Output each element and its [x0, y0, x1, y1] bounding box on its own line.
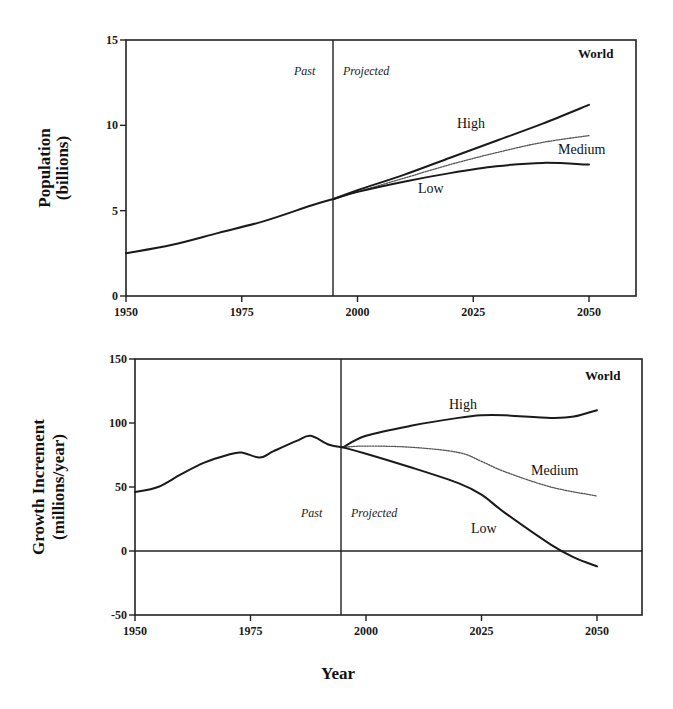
x-tick-label: 2000: [354, 624, 378, 638]
growth-increment-chart: -50050100150 19501975200020252050 Past P…: [29, 352, 642, 638]
figure: 051015 19501975200020252050 Past Project…: [0, 0, 673, 709]
world-label: World: [578, 46, 614, 61]
low-label: Low: [418, 181, 445, 196]
x-tick-label: 2000: [346, 305, 370, 319]
y-tick-label: 15: [106, 33, 118, 47]
population-chart: 051015 19501975200020252050 Past Project…: [35, 33, 636, 319]
projected-label: Projected: [342, 64, 390, 78]
plot-frame: [135, 359, 642, 615]
x-tick-label: 2025: [461, 305, 485, 319]
y-tick-label: 10: [106, 118, 118, 132]
series-past-line: [126, 199, 334, 254]
medium-label: Medium: [558, 142, 606, 157]
plot-frame: [126, 40, 636, 296]
y-tick-label: 50: [115, 480, 127, 494]
x-tick-label: 2050: [585, 624, 609, 638]
y-tick-label: 100: [109, 416, 127, 430]
series-lines: [126, 105, 589, 253]
y-tick-label: 150: [109, 352, 127, 366]
x-tick-label: 1950: [114, 305, 138, 319]
y-tick-label: 0: [112, 289, 118, 303]
high-label: High: [457, 116, 485, 131]
y-tick-label: -50: [111, 608, 127, 622]
series-past-line: [135, 436, 343, 492]
y-tick-label: 5: [112, 204, 118, 218]
y-axis-ticks: -50050100150: [109, 352, 135, 622]
y-axis-title-line1: Growth Increment: [29, 419, 48, 555]
x-axis-ticks: 19501975200020252050: [114, 296, 601, 319]
high-label: High: [449, 397, 477, 412]
x-axis-title: Year: [321, 664, 355, 683]
x-tick-label: 2025: [470, 624, 494, 638]
x-axis-ticks: 19501975200020252050: [123, 615, 609, 638]
medium-label: Medium: [531, 463, 579, 478]
x-tick-label: 1975: [239, 624, 263, 638]
x-tick-label: 1975: [230, 305, 254, 319]
y-axis-title-line2: (millions/year): [49, 434, 68, 540]
series-lines: [135, 410, 597, 566]
low-label: Low: [471, 521, 498, 536]
series-low-line: [334, 163, 589, 199]
y-tick-label: 0: [121, 544, 127, 558]
past-label: Past: [293, 64, 316, 78]
y-axis-title-line1: Population: [35, 128, 54, 208]
projected-label: Projected: [350, 506, 398, 520]
x-tick-label: 2050: [577, 305, 601, 319]
series-high-line: [343, 410, 597, 447]
past-label: Past: [300, 506, 323, 520]
y-axis-ticks: 051015: [106, 33, 126, 303]
y-axis-title-line2: (billions): [53, 136, 72, 200]
world-label: World: [585, 368, 621, 383]
x-tick-label: 1950: [123, 624, 147, 638]
